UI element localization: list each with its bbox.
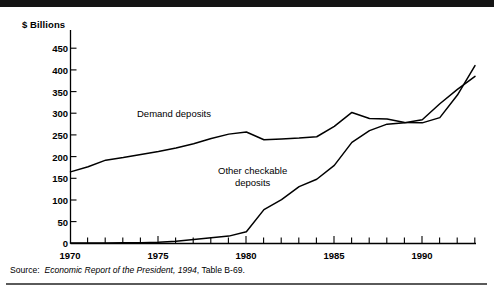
- series-label-other-line2: deposits: [235, 177, 270, 188]
- chart-figure: $ Billions 450 400 350 300 250 200 150 1…: [0, 0, 494, 293]
- series-label-other-line1: Other checkable: [218, 165, 287, 176]
- source-note: Source: Economic Report of the President…: [10, 265, 245, 275]
- plot-area: [0, 0, 494, 293]
- series-line-demand-deposits: [71, 66, 476, 172]
- series-label-other-checkable-deposits: Other checkabledeposits: [218, 165, 287, 188]
- source-title: Economic Report of the President, 1994: [44, 265, 196, 275]
- bottom-divider-rule: [6, 283, 487, 285]
- source-suffix: , Table B-69.: [197, 265, 245, 275]
- series-label-demand-deposits: Demand deposits: [137, 108, 211, 120]
- source-prefix: Source:: [10, 265, 40, 275]
- series-line-other-checkable-deposits: [71, 76, 476, 243]
- y-tick-marks: [71, 48, 77, 221]
